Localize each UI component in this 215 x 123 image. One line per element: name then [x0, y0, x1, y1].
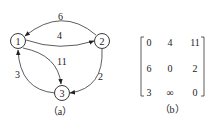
edge-1-to-3	[23, 48, 61, 84]
caption-a: （a）	[48, 106, 72, 117]
adjacency-matrix: 0 4 11 6 0 2 3 ∞ 0 （b）	[141, 37, 204, 115]
matrix-cell-r2c1: 6	[147, 63, 152, 74]
matrix-cell-r1c3: 11	[190, 37, 200, 48]
matrix-cell-r2c3: 2	[193, 63, 198, 74]
caption-b: （b）	[160, 104, 185, 115]
edge-weight-2-1: 6	[58, 11, 63, 22]
node-3: 3	[55, 86, 70, 101]
left-bracket	[141, 37, 144, 96]
right-bracket	[201, 37, 204, 96]
svg-text:2: 2	[100, 36, 105, 47]
edge-weight-2-3: 2	[98, 71, 103, 82]
svg-text:3: 3	[60, 88, 65, 99]
matrix-cell-r1c2: 4	[168, 37, 173, 48]
edge-weight-1-2: 4	[57, 30, 62, 41]
matrix-cell-r3c1: 3	[147, 87, 152, 98]
matrix-cell-r1c1: 0	[147, 37, 152, 48]
diagram-canvas: 6 4 11 3 2 1 2 3 （a） 0 4 11	[0, 0, 215, 123]
matrix-cell-r3c3: 0	[193, 87, 198, 98]
edge-3-to-1	[18, 50, 55, 93]
matrix-cell-r2c2: 0	[168, 63, 173, 74]
svg-text:1: 1	[16, 36, 21, 47]
matrix-cell-r3c2: ∞	[166, 87, 173, 98]
edge-weight-3-1: 3	[15, 69, 20, 80]
node-1: 1	[11, 34, 26, 49]
edge-weight-1-3: 11	[57, 56, 67, 67]
node-2: 2	[95, 34, 110, 49]
directed-graph: 6 4 11 3 2 1 2 3 （a）	[11, 11, 110, 117]
